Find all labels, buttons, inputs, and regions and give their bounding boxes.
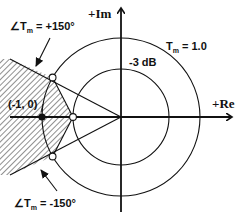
minus-3db-point: [70, 114, 77, 121]
lower-annotation-arrow: [41, 170, 57, 191]
nyquist-diagram: +Im +Re Tm = 1.0 -3 dB (-1, 0) ∠Tm = +15…: [0, 0, 242, 214]
unit-circle-label: Tm = 1.0: [166, 40, 207, 54]
upper-crossing-point: [49, 74, 56, 81]
critical-point-label: (-1, 0): [8, 98, 38, 110]
lower-crossing-point: [49, 153, 56, 160]
lower-angle-label: ∠Tm = -150°: [14, 197, 76, 211]
real-axis-label: +Re: [212, 96, 235, 111]
upper-annotation-arrow: [36, 38, 50, 66]
minus-3db-label: -3 dB: [129, 56, 157, 68]
critical-point: [38, 113, 45, 120]
upper-angle-label: ∠Tm = +150°: [10, 20, 75, 34]
imag-axis-label: +Im: [88, 6, 111, 21]
